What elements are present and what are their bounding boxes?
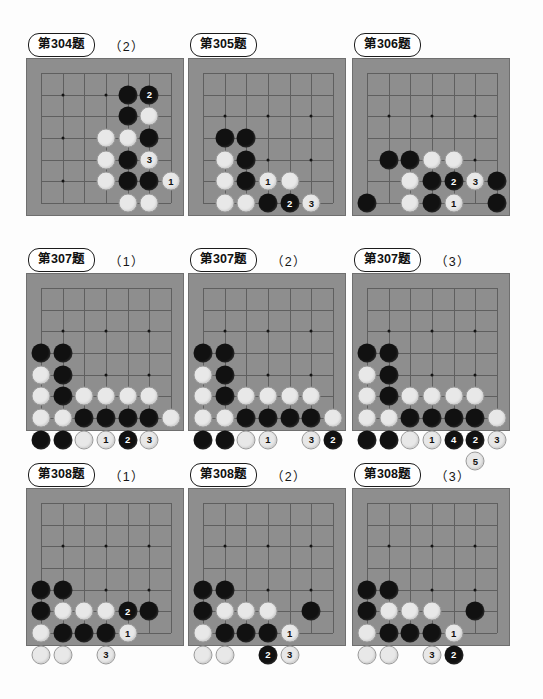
- white-stone[interactable]: [53, 645, 72, 664]
- white-stone[interactable]: 1: [162, 172, 181, 191]
- white-stone[interactable]: [401, 430, 420, 449]
- black-stone[interactable]: [302, 409, 321, 428]
- go-board[interactable]: 213: [26, 488, 184, 646]
- black-stone[interactable]: [444, 409, 463, 428]
- white-stone[interactable]: [379, 645, 398, 664]
- black-stone[interactable]: [118, 85, 137, 104]
- black-stone[interactable]: [237, 172, 256, 191]
- black-stone[interactable]: [118, 409, 137, 428]
- black-stone[interactable]: [237, 129, 256, 148]
- black-stone[interactable]: 2: [466, 430, 485, 449]
- black-stone[interactable]: [259, 409, 278, 428]
- black-stone[interactable]: [194, 344, 213, 363]
- white-stone[interactable]: [32, 645, 51, 664]
- black-stone[interactable]: [32, 344, 51, 363]
- white-stone[interactable]: 1: [259, 172, 278, 191]
- white-stone[interactable]: [215, 194, 234, 213]
- white-stone[interactable]: [75, 387, 94, 406]
- black-stone[interactable]: [140, 409, 159, 428]
- white-stone[interactable]: [194, 387, 213, 406]
- black-stone[interactable]: [358, 602, 377, 621]
- white-stone[interactable]: 3: [140, 150, 159, 169]
- black-stone[interactable]: [302, 602, 321, 621]
- black-stone[interactable]: [401, 409, 420, 428]
- white-stone[interactable]: [259, 602, 278, 621]
- white-stone[interactable]: [379, 409, 398, 428]
- white-stone[interactable]: [215, 409, 234, 428]
- white-stone[interactable]: 3: [423, 645, 442, 664]
- black-stone[interactable]: 2: [280, 194, 299, 213]
- white-stone[interactable]: [401, 172, 420, 191]
- white-stone[interactable]: [53, 602, 72, 621]
- white-stone[interactable]: [97, 387, 116, 406]
- black-stone[interactable]: [379, 365, 398, 384]
- white-stone[interactable]: [466, 387, 485, 406]
- black-stone[interactable]: [194, 602, 213, 621]
- black-stone[interactable]: [215, 624, 234, 643]
- black-stone[interactable]: [358, 194, 377, 213]
- white-stone[interactable]: [401, 387, 420, 406]
- black-stone[interactable]: [259, 194, 278, 213]
- white-stone[interactable]: 1: [280, 624, 299, 643]
- white-stone[interactable]: [488, 409, 507, 428]
- black-stone[interactable]: [237, 150, 256, 169]
- white-stone[interactable]: [140, 194, 159, 213]
- white-stone[interactable]: [379, 602, 398, 621]
- white-stone[interactable]: [194, 624, 213, 643]
- white-stone[interactable]: [259, 387, 278, 406]
- black-stone[interactable]: [401, 150, 420, 169]
- white-stone[interactable]: [358, 365, 377, 384]
- black-stone[interactable]: [140, 129, 159, 148]
- white-stone[interactable]: [423, 150, 442, 169]
- black-stone[interactable]: [140, 602, 159, 621]
- black-stone[interactable]: [53, 387, 72, 406]
- white-stone[interactable]: 3: [280, 645, 299, 664]
- black-stone[interactable]: [194, 430, 213, 449]
- black-stone[interactable]: [75, 409, 94, 428]
- white-stone[interactable]: [118, 194, 137, 213]
- black-stone[interactable]: [215, 129, 234, 148]
- white-stone[interactable]: [75, 430, 94, 449]
- black-stone[interactable]: [118, 172, 137, 191]
- white-stone[interactable]: [324, 409, 343, 428]
- white-stone[interactable]: [358, 645, 377, 664]
- black-stone[interactable]: [379, 580, 398, 599]
- white-stone[interactable]: [53, 409, 72, 428]
- black-stone[interactable]: [32, 430, 51, 449]
- white-stone[interactable]: 1: [97, 430, 116, 449]
- black-stone[interactable]: 2: [118, 430, 137, 449]
- go-board[interactable]: 231: [26, 58, 184, 216]
- white-stone[interactable]: [444, 150, 463, 169]
- black-stone[interactable]: [53, 580, 72, 599]
- black-stone[interactable]: [423, 624, 442, 643]
- black-stone[interactable]: [140, 172, 159, 191]
- black-stone[interactable]: 2: [118, 602, 137, 621]
- white-stone[interactable]: [358, 624, 377, 643]
- white-stone[interactable]: [194, 645, 213, 664]
- black-stone[interactable]: [401, 624, 420, 643]
- white-stone[interactable]: [215, 150, 234, 169]
- white-stone[interactable]: [302, 387, 321, 406]
- white-stone[interactable]: [97, 602, 116, 621]
- black-stone[interactable]: [488, 172, 507, 191]
- white-stone[interactable]: [140, 387, 159, 406]
- white-stone[interactable]: 1: [444, 624, 463, 643]
- go-board[interactable]: 132: [188, 273, 346, 431]
- black-stone[interactable]: [379, 387, 398, 406]
- white-stone[interactable]: [32, 624, 51, 643]
- black-stone[interactable]: [97, 409, 116, 428]
- white-stone[interactable]: 1: [259, 430, 278, 449]
- black-stone[interactable]: [237, 409, 256, 428]
- black-stone[interactable]: [358, 580, 377, 599]
- black-stone[interactable]: [466, 409, 485, 428]
- black-stone[interactable]: 4: [444, 430, 463, 449]
- black-stone[interactable]: [53, 624, 72, 643]
- white-stone[interactable]: [237, 194, 256, 213]
- black-stone[interactable]: [379, 624, 398, 643]
- white-stone[interactable]: [358, 387, 377, 406]
- go-board[interactable]: 123: [188, 58, 346, 216]
- white-stone[interactable]: [118, 129, 137, 148]
- black-stone[interactable]: [379, 430, 398, 449]
- black-stone[interactable]: [259, 624, 278, 643]
- go-board[interactable]: 123: [188, 488, 346, 646]
